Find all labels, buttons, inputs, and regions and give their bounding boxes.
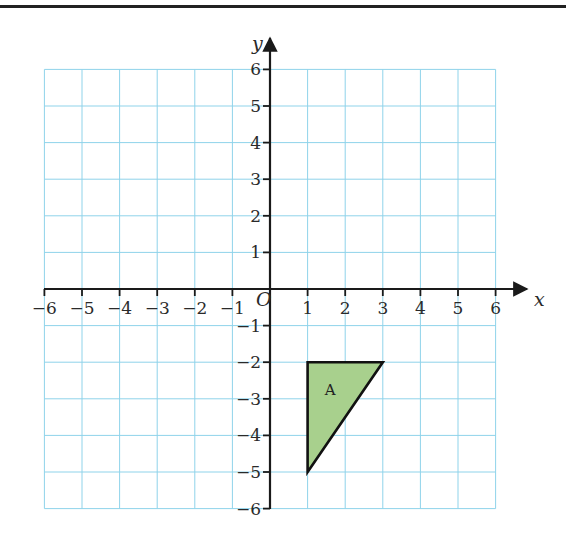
coordinate-grid: A −6−5−4−3−2−1123456654321−1−2−3−4−5−6 x… [0, 0, 566, 551]
y-tick-label: 1 [250, 242, 261, 262]
x-tick-label: 2 [340, 298, 351, 318]
y-tick-label: −4 [236, 425, 261, 445]
x-tick-label: −4 [107, 298, 132, 318]
x-tick-label: −5 [69, 298, 94, 318]
x-tick-label: 1 [302, 298, 313, 318]
y-tick-label: 3 [250, 169, 261, 189]
y-tick-label: −2 [236, 352, 261, 372]
y-tick-label: −3 [236, 389, 261, 409]
x-tick-label: 6 [490, 298, 501, 318]
x-tick-label: 3 [377, 298, 388, 318]
x-axis-label: x [534, 288, 545, 310]
y-tick-label: 4 [250, 133, 261, 153]
y-tick-label: 6 [250, 59, 261, 79]
x-tick-label: −2 [182, 298, 207, 318]
x-tick-label: 5 [453, 298, 464, 318]
y-tick-label: −5 [236, 462, 261, 482]
x-tick-label: −6 [32, 298, 57, 318]
axes [44, 38, 527, 509]
origin-label: O [256, 288, 272, 310]
y-tick-label: 5 [250, 96, 261, 116]
y-tick-label: −1 [236, 316, 261, 336]
x-tick-label: 4 [415, 298, 426, 318]
y-axis-label: y [251, 32, 263, 54]
y-tick-label: 2 [250, 206, 261, 226]
y-tick-label: −6 [236, 499, 261, 519]
shape-label-a: A [324, 381, 336, 399]
x-tick-label: −3 [145, 298, 170, 318]
